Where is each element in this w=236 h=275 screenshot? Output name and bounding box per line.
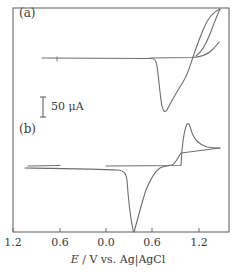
x-tick-label: 0.6 <box>51 236 69 249</box>
plot-frame <box>13 8 229 232</box>
x-tick-label: 0.6 <box>143 236 161 249</box>
trace-b <box>25 123 220 232</box>
trace-a <box>42 9 220 111</box>
x-axis-units: / V vs. Ag|AgCl <box>79 253 166 266</box>
x-axis-title: E / V vs. Ag|AgCl <box>0 253 236 266</box>
x-tick-label: 0.0 <box>97 236 115 249</box>
x-axis-ticks <box>13 228 199 232</box>
scale-bar-label: 50 μA <box>51 100 84 113</box>
x-tick-label: 1.2 <box>190 236 208 249</box>
panel-label-a: (a) <box>19 6 36 20</box>
x-tick-label: 1.2 <box>4 236 22 249</box>
panel-label-b: (b) <box>19 122 36 136</box>
x-axis-variable: E <box>71 253 79 266</box>
scale-bar <box>40 97 46 117</box>
cyclic-voltammogram-chart <box>0 0 236 275</box>
